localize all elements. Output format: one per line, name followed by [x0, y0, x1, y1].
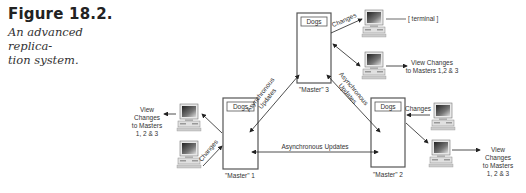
viewer-computer-left-icon: [177, 104, 201, 131]
master-2-server: Dogs "Master" 2: [371, 98, 405, 178]
view-link-m1: [202, 114, 222, 133]
view-label-top-right-line1: View Changes: [411, 59, 454, 67]
view-label-left-4: 1, 2 & 3: [136, 130, 159, 137]
master-3-label: "Master" 3: [299, 86, 329, 93]
view-link-m2: [406, 123, 428, 143]
viewer-computer-icon: [362, 52, 386, 79]
master-3-server: Dogs "Master" 3: [297, 13, 331, 93]
view-label-right-2: Changes: [485, 154, 512, 162]
view-label-right-1: View: [491, 146, 505, 153]
master-1-label: "Master" 1: [225, 172, 255, 179]
view-link-m3: [333, 44, 360, 66]
view-label-top-right-line2: to Masters 1,2 & 3: [406, 67, 459, 74]
view-label-left-3: to Masters: [132, 122, 163, 129]
changes-computer-right-icon: [431, 103, 455, 130]
replication-diagram: Dogs "Master" 3 Dogs "Master" 1 Dogs "Ma…: [0, 0, 526, 193]
changes-computer-left-icon: [177, 141, 201, 168]
terminal-label: [ terminal ]: [408, 15, 439, 23]
changes-label-m1: Changes: [197, 138, 220, 164]
master-2-label: "Master" 2: [373, 171, 403, 178]
master-1-server: Dogs "Master" 1: [223, 98, 258, 179]
async-label-m1-m2: Asynchronous Updates: [281, 143, 349, 151]
view-label-left-2: Changes: [134, 114, 161, 122]
master-3-db-label: Dogs: [306, 18, 322, 26]
view-label-left-1: View: [140, 106, 154, 113]
view-label-right-4: 1, 2 & 3: [487, 170, 510, 177]
terminal-computer-icon: [362, 10, 386, 37]
viewer-computer-right-icon: [429, 140, 453, 167]
changes-label-m2: Changes: [405, 105, 432, 113]
master-2-db-label: Dogs: [380, 103, 396, 111]
changes-label-m3: Changes: [331, 11, 359, 29]
view-label-right-3: to Masters: [483, 162, 514, 169]
